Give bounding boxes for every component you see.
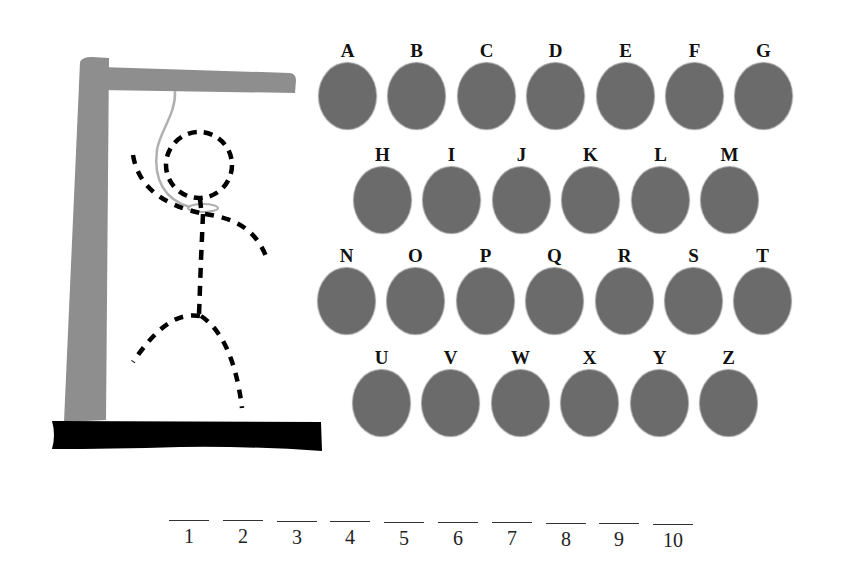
letter-key-disc[interactable]: [631, 370, 688, 436]
blank-number: 1: [169, 525, 209, 547]
letter-key-disc[interactable]: [353, 370, 410, 436]
letter-key-disc[interactable]: [597, 63, 654, 129]
letter-key-l[interactable]: L: [632, 145, 689, 235]
letter-key-label: K: [562, 145, 619, 165]
letter-key-disc[interactable]: [458, 63, 515, 129]
blank-number: 10: [653, 529, 693, 551]
letter-key-disc[interactable]: [735, 63, 792, 129]
blank-slot-3: 3: [277, 521, 317, 555]
letter-key-disc[interactable]: [596, 268, 653, 334]
letter-key-y[interactable]: Y: [631, 348, 688, 438]
letter-key-e[interactable]: E: [597, 41, 654, 131]
letter-key-disc[interactable]: [562, 167, 619, 233]
blank-line: [384, 522, 424, 523]
letter-key-disc[interactable]: [387, 268, 444, 334]
letter-key-disc[interactable]: [700, 370, 757, 436]
letter-key-label: Q: [526, 246, 583, 266]
letter-key-c[interactable]: C: [458, 41, 515, 131]
blank-line: [330, 521, 370, 522]
letter-key-z[interactable]: Z: [700, 348, 757, 438]
letter-key-label: A: [319, 41, 376, 61]
blank-line: [438, 522, 478, 523]
blank-slot-10: 10: [653, 524, 693, 558]
letter-key-o[interactable]: O: [387, 246, 444, 336]
letter-key-i[interactable]: I: [423, 145, 480, 235]
letter-key-disc[interactable]: [527, 63, 584, 129]
letter-key-t[interactable]: T: [734, 246, 791, 336]
letter-key-label: S: [665, 246, 722, 266]
letter-key-disc[interactable]: [319, 63, 376, 129]
letter-key-label: Z: [700, 348, 757, 368]
letter-key-disc[interactable]: [665, 268, 722, 334]
letter-key-label: U: [353, 348, 410, 368]
figure-head: [166, 132, 232, 198]
letter-key-label: M: [701, 145, 758, 165]
gallows-post: [64, 57, 109, 422]
letter-key-label: I: [423, 145, 480, 165]
letter-key-m[interactable]: M: [701, 145, 758, 235]
letter-key-v[interactable]: V: [422, 348, 479, 438]
letter-key-disc[interactable]: [422, 370, 479, 436]
letter-key-g[interactable]: G: [735, 41, 792, 131]
letter-key-label: E: [597, 41, 654, 61]
letter-key-disc[interactable]: [423, 167, 480, 233]
letter-key-disc[interactable]: [561, 370, 618, 436]
letter-key-u[interactable]: U: [353, 348, 410, 438]
blank-slot-8: 8: [546, 523, 586, 557]
letter-key-label: V: [422, 348, 479, 368]
letter-key-label: N: [318, 246, 375, 266]
letter-key-b[interactable]: B: [388, 41, 445, 131]
blank-number: 6: [438, 527, 478, 549]
letter-key-disc[interactable]: [457, 268, 514, 334]
letter-key-p[interactable]: P: [457, 246, 514, 336]
gallows-beam: [100, 67, 296, 93]
letter-key-w[interactable]: W: [492, 348, 549, 438]
letter-key-label: L: [632, 145, 689, 165]
blank-line: [223, 520, 263, 521]
letter-key-disc[interactable]: [318, 268, 375, 334]
figure-neck: [200, 199, 201, 208]
blank-slot-1: 1: [169, 520, 209, 554]
letter-key-label: C: [458, 41, 515, 61]
letter-key-label: T: [734, 246, 791, 266]
blank-number: 4: [330, 526, 370, 548]
letter-key-disc[interactable]: [526, 268, 583, 334]
letter-key-disc[interactable]: [734, 268, 791, 334]
figure-left-leg: [133, 315, 200, 362]
letter-key-label: O: [387, 246, 444, 266]
letter-key-disc[interactable]: [666, 63, 723, 129]
letter-key-disc[interactable]: [388, 63, 445, 129]
blank-line: [492, 522, 532, 523]
letter-key-d[interactable]: D: [527, 41, 584, 131]
figure-right-arm: [205, 214, 268, 262]
letter-key-j[interactable]: J: [493, 145, 550, 235]
blank-slot-6: 6: [438, 522, 478, 556]
letter-key-label: B: [388, 41, 445, 61]
letter-key-s[interactable]: S: [665, 246, 722, 336]
letter-key-disc[interactable]: [701, 167, 758, 233]
letter-key-x[interactable]: X: [561, 348, 618, 438]
blank-line: [277, 521, 317, 522]
letter-key-disc[interactable]: [493, 167, 550, 233]
blank-number: 3: [277, 526, 317, 548]
blank-number: 7: [492, 527, 532, 549]
letter-key-a[interactable]: A: [319, 41, 376, 131]
letter-key-k[interactable]: K: [562, 145, 619, 235]
blank-slot-7: 7: [492, 522, 532, 556]
blank-number: 9: [599, 528, 639, 550]
letter-key-disc[interactable]: [354, 167, 411, 233]
letter-key-disc[interactable]: [492, 370, 549, 436]
letter-key-r[interactable]: R: [596, 246, 653, 336]
blank-slot-5: 5: [384, 522, 424, 556]
letter-key-disc[interactable]: [632, 167, 689, 233]
letter-key-q[interactable]: Q: [526, 246, 583, 336]
letter-key-label: Y: [631, 348, 688, 368]
blank-slot-9: 9: [599, 523, 639, 557]
rope: [156, 91, 190, 207]
letter-key-f[interactable]: F: [666, 41, 723, 131]
blank-number: 5: [384, 527, 424, 549]
letter-key-h[interactable]: H: [354, 145, 411, 235]
blank-line: [599, 523, 639, 524]
blank-line: [546, 523, 586, 524]
letter-key-n[interactable]: N: [318, 246, 375, 336]
